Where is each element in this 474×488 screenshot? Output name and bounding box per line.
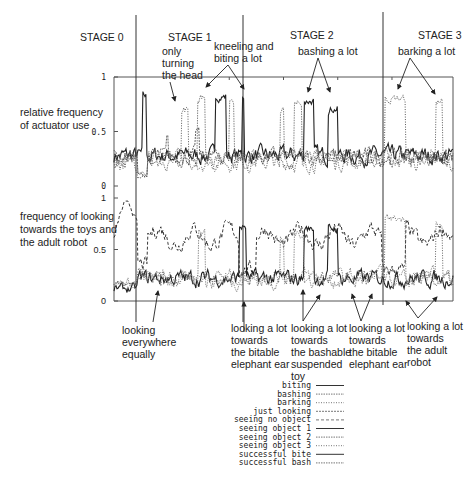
annotation-text: elephant ear (349, 358, 408, 370)
annotation-text: the head (162, 69, 203, 81)
annotation-text: turning (162, 57, 194, 69)
annotation-looking-elephant-ear-1: looking a lot towards the bitable elepha… (231, 322, 290, 370)
annotation-text: looking (122, 324, 155, 336)
annotation-arrow (153, 291, 158, 322)
annotation-arrow (398, 58, 410, 89)
annotation-arrow (170, 82, 175, 101)
y-tick-label: 0.5 (92, 128, 107, 137)
annotation-text: suspended (291, 358, 343, 370)
annotation-arrow (318, 58, 330, 92)
stage-label-2: STAGE 2 (290, 29, 334, 41)
annotation-looking-elephant-ear-2: looking a lot towards the bitable elepha… (349, 322, 408, 370)
annotation-arrow (352, 294, 361, 321)
annotation-text: looking a lot (349, 322, 405, 334)
annotation-text: only (162, 45, 182, 57)
annotation-text: kneeling and (214, 40, 274, 52)
annotation-arrow (406, 301, 418, 318)
annotation-text: biting a lot (214, 52, 262, 64)
annotation-text: equally (122, 348, 156, 360)
annotation-arrow (308, 58, 318, 92)
stage-label-1: STAGE 1 (168, 31, 212, 43)
lower-ylabel-line-0: frequency of looking (20, 210, 114, 222)
annotation-arrows (153, 58, 437, 332)
upper-ylabel-line-1: of actuator use (20, 119, 90, 131)
annotation-text: the adult (407, 344, 447, 356)
annotation-text: everywhere (122, 336, 176, 348)
legend-label: successful bash (239, 458, 311, 467)
series-line-just-looking (114, 127, 453, 177)
series-line-barking (114, 95, 453, 179)
y-tick-label: 0 (101, 296, 106, 306)
annotation-looking-everywhere: looking everywhere equally (122, 324, 176, 360)
annotation-looking-adult-robot: looking a lot towards the adult robot (407, 320, 463, 368)
annotation-text: elephant ear (231, 358, 290, 370)
stage-label-0: STAGE 0 (80, 31, 124, 43)
annotation-text: bashing a lot (298, 45, 358, 57)
annotation-text: robot (407, 356, 431, 368)
lower-ylabel-line-1: towards the toys and (20, 223, 117, 235)
annotation-text: the bitable (231, 346, 280, 358)
annotation-text: looking a lot (291, 322, 347, 334)
annotation-arrow (361, 294, 372, 321)
figure: STAGE 0 STAGE 1 STAGE 2 STAGE 3 relative… (0, 0, 474, 488)
annotation-text: towards (407, 332, 444, 344)
lower-ylabel-line-2: the adult robot (20, 236, 87, 248)
stage-label-3: STAGE 3 (418, 29, 462, 41)
annotation-arrow (303, 295, 320, 321)
y-tick-label: 1 (101, 193, 106, 203)
legend: bitingbashingbarkingjust lookingseeing n… (234, 381, 344, 467)
annotation-text: barking a lot (398, 45, 455, 57)
annotation-text: the bitable (349, 346, 398, 358)
annotation-text: towards (231, 334, 268, 346)
annotation-text: towards (349, 334, 386, 346)
annotation-only-turning-head: only turning the head (162, 45, 203, 81)
annotation-arrow (206, 65, 228, 87)
annotation-text: looking a lot (407, 320, 463, 332)
annotation-text: looking a lot (231, 322, 287, 334)
annotation-barking: barking a lot (398, 45, 455, 57)
annotation-arrow (418, 297, 437, 318)
annotation-arrow (410, 58, 435, 94)
annotation-looking-bashable-toy: looking a lot towards the bashable suspe… (291, 322, 351, 382)
lower-panel-series (114, 201, 453, 292)
upper-panel-series (114, 92, 453, 179)
lower-ylabel: frequency of looking towards the toys an… (20, 210, 117, 248)
annotation-bashing: bashing a lot (298, 45, 358, 57)
annotation-kneeling-biting: kneeling and biting a lot (214, 40, 274, 64)
plot-border (114, 77, 453, 301)
annotation-text: towards (291, 334, 328, 346)
upper-ylabel-line-0: relative frequency (20, 106, 104, 118)
plot-frame (114, 77, 453, 301)
y-tick-label: 0.5 (93, 245, 106, 255)
y-tick-label: 1 (101, 73, 106, 82)
annotation-text: the bashable (291, 346, 351, 358)
y-tick-label: 0 (101, 182, 106, 191)
